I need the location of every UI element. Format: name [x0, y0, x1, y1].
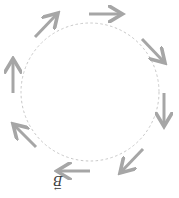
field-label-B-vector: → B [53, 174, 63, 192]
field-circle [21, 23, 159, 161]
magnetic-field-diagram [0, 0, 179, 198]
field-arrow-bottom-right-icon [121, 149, 143, 172]
field-arrows [13, 14, 164, 172]
field-arrow-bottom-left-icon [14, 125, 36, 147]
field-arrow-top-right-icon [142, 39, 164, 62]
label-text: B [53, 173, 63, 188]
